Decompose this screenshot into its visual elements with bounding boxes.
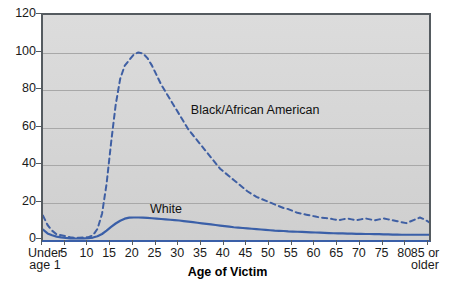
x-tick-mark	[109, 240, 110, 245]
x-tick-label: 45	[238, 247, 252, 259]
x-tick-mark	[268, 240, 269, 245]
x-tick-label: 10	[79, 247, 93, 259]
series-lines	[43, 15, 429, 240]
y-tick-label: 80	[2, 82, 36, 95]
x-tick-label: 55	[284, 247, 298, 259]
x-tick-label: 30	[170, 247, 184, 259]
x-tick-mark	[155, 240, 156, 245]
x-tick-mark	[200, 240, 201, 245]
x-tick-mark	[336, 240, 337, 245]
y-tick-label: 100	[2, 44, 36, 57]
x-tick-mark	[313, 240, 314, 245]
series-label-white: White	[150, 202, 182, 216]
x-tick-mark	[359, 240, 360, 245]
x-tick-mark	[41, 240, 42, 245]
x-tick-label: 25	[148, 247, 162, 259]
x-tick-mark	[86, 240, 87, 245]
y-tick-mark	[36, 88, 41, 89]
y-tick-mark	[36, 51, 41, 52]
x-tick-label: 40	[216, 247, 230, 259]
series-line-black-african-american	[43, 53, 429, 238]
x-tick-mark	[64, 240, 65, 245]
x-tick-mark	[245, 240, 246, 245]
x-tick-mark	[291, 240, 292, 245]
x-tick-label: 20	[125, 247, 139, 259]
x-axis-title: Age of Victim	[0, 265, 455, 279]
x-tick-label: 60	[307, 247, 321, 259]
series-label-black-african-american: Black/African American	[191, 103, 320, 117]
x-tick-label: 35	[193, 247, 207, 259]
x-tick-label: 70	[352, 247, 366, 259]
y-tick-label: 20	[2, 194, 36, 207]
x-tick-label: 15	[102, 247, 116, 259]
y-tick-mark	[36, 163, 41, 164]
y-tick-mark	[36, 201, 41, 202]
y-tick-mark	[36, 13, 41, 14]
plot-area	[41, 13, 431, 242]
x-tick-label: 65	[329, 247, 343, 259]
x-tick-mark	[404, 240, 405, 245]
chart-container: 020406080100120 Underage 151015202530354…	[0, 0, 455, 288]
y-tick-label: 60	[2, 119, 36, 132]
x-tick-label: 80	[397, 247, 411, 259]
x-tick-label: 5	[60, 247, 67, 259]
x-tick-mark	[427, 240, 428, 245]
y-tick-label: 0	[2, 232, 36, 245]
x-tick-label: 50	[261, 247, 275, 259]
x-tick-mark	[223, 240, 224, 245]
x-tick-label: 75	[375, 247, 389, 259]
y-axis: 020406080100120	[0, 0, 36, 288]
y-tick-mark	[36, 238, 41, 239]
y-tick-label: 40	[2, 157, 36, 170]
x-tick-mark	[132, 240, 133, 245]
y-tick-label: 120	[2, 7, 36, 20]
y-tick-mark	[36, 126, 41, 127]
x-tick-mark	[177, 240, 178, 245]
x-tick-mark	[382, 240, 383, 245]
